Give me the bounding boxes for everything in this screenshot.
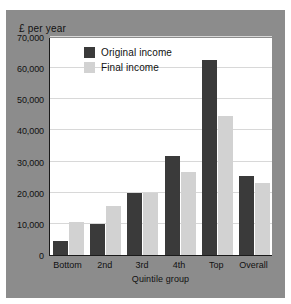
chart-panel: £ per year 010,00020,00030,00040,00050,0…	[6, 10, 285, 298]
x-axis-tick-label: 2nd	[97, 260, 112, 270]
y-axis-tick-label: 0	[39, 251, 44, 261]
bar-original	[90, 224, 105, 255]
legend-item-original: Original income	[84, 46, 172, 58]
bar-final	[218, 116, 233, 255]
bar-original	[127, 193, 142, 255]
x-axis-title: Quintile group	[49, 274, 272, 284]
y-axis-tick-label: 20,000	[17, 189, 44, 199]
y-axis-tick-label: 70,000	[17, 33, 44, 43]
bar-original	[202, 60, 217, 255]
legend-swatch-original-icon	[84, 47, 95, 58]
y-axis-tick-label: 30,000	[17, 158, 44, 168]
bar-original	[165, 156, 180, 255]
bar-original	[239, 176, 254, 255]
chart-figure: £ per year 010,00020,00030,00040,00050,0…	[0, 0, 291, 304]
bar-final	[106, 206, 121, 255]
bar-final	[143, 193, 158, 255]
legend-label-final: Final income	[101, 62, 159, 73]
x-axis-tick-label: Top	[209, 260, 224, 270]
chart-legend: Original income Final income	[84, 46, 172, 76]
bar-final	[255, 183, 270, 255]
legend-item-final: Final income	[84, 61, 172, 73]
bar-original	[53, 241, 68, 255]
x-axis-tick-label: Overall	[239, 260, 268, 270]
x-axis-tick-label: Bottom	[53, 260, 82, 270]
y-axis-tick-labels: 010,00020,00030,00040,00050,00060,00070,…	[6, 10, 49, 298]
x-axis-tick-label: 3rd	[135, 260, 148, 270]
y-axis-tick-label: 10,000	[17, 220, 44, 230]
x-axis-tick-labels: Bottom2nd3rd4thTopOverall	[49, 260, 272, 274]
y-axis-tick-label: 60,000	[17, 64, 44, 74]
y-axis-tick-label: 40,000	[17, 126, 44, 136]
gridline	[50, 36, 272, 37]
y-axis-tick-label: 50,000	[17, 95, 44, 105]
x-axis-tick-label: 4th	[173, 260, 186, 270]
bar-final	[181, 172, 196, 255]
legend-label-original: Original income	[101, 47, 172, 58]
bar-final	[69, 222, 84, 255]
legend-swatch-final-icon	[84, 62, 95, 73]
